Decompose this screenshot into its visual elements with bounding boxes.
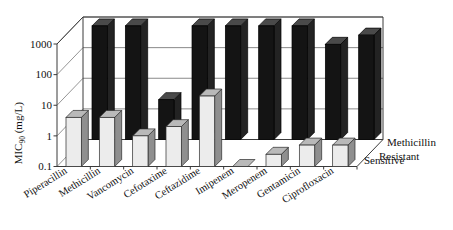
bar-sensitive — [133, 129, 155, 167]
bar-sensitive — [166, 120, 188, 167]
mic90-3d-bar-chart: 10001001010.1 PiperacillinMethicillinVan… — [0, 0, 453, 230]
y-tick-label: 0.1 — [38, 160, 52, 172]
bar-sensitive — [66, 110, 88, 166]
y-axis-title-text: MIC90 (mg/L) — [12, 102, 27, 165]
y-axis-ticks: 10001001010.1 — [30, 38, 57, 173]
bar-resistant — [225, 19, 247, 140]
legend-label: Methicillin — [387, 136, 436, 148]
bar-resistant — [359, 28, 381, 139]
y-tick-label: 1 — [47, 130, 53, 142]
y-tick-label: 10 — [41, 99, 53, 111]
bar-sensitive — [199, 89, 221, 166]
bar-resistant — [325, 37, 347, 139]
x-axis-category-labels: PiperacillinMethicillinVancomycinCefotax… — [22, 164, 357, 205]
bar-sensitive — [333, 138, 355, 166]
bar-resistant — [292, 19, 314, 140]
bar-sensitive — [99, 110, 121, 166]
bar-sensitive — [299, 138, 321, 166]
y-tick-label: 100 — [36, 68, 53, 80]
chart-container: 10001001010.1 PiperacillinMethicillinVan… — [0, 0, 453, 230]
y-tick-label: 1000 — [30, 38, 53, 50]
y-axis-title: MIC90 (mg/L) — [12, 102, 27, 165]
bar-resistant — [259, 19, 281, 140]
legend-label: Sensitive — [364, 154, 404, 166]
bar-resistant — [125, 19, 147, 140]
